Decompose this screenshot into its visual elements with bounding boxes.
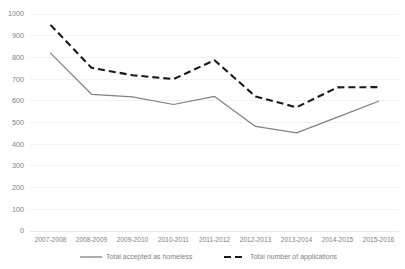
- y-axis-tick-label: 1000: [8, 9, 24, 18]
- y-axis-tick-label: 500: [12, 118, 24, 127]
- y-axis-tick-label: 600: [12, 96, 24, 105]
- x-axis-tick-label: 2010-2011: [158, 236, 189, 243]
- chart-legend: Total accepted as homelessTotal number o…: [80, 253, 338, 261]
- x-axis-tick-label: 2007-2008: [35, 236, 67, 243]
- legend-label[interactable]: Total accepted as homeless: [106, 253, 193, 261]
- line-chart: 01002003004005006007008009001000 2007-20…: [0, 0, 405, 269]
- chart-plot-area: 01002003004005006007008009001000 2007-20…: [0, 0, 405, 269]
- y-axis-tick-label: 100: [12, 205, 24, 214]
- x-axis-tick-label: 2009-2010: [117, 236, 149, 243]
- y-axis-tick-label: 300: [12, 161, 24, 170]
- legend-label[interactable]: Total number of applications: [250, 253, 338, 261]
- y-axis-tick-label: 400: [12, 140, 24, 149]
- y-axis-tick-labels: 01002003004005006007008009001000: [8, 9, 24, 235]
- x-axis-tick-label: 2012-2013: [240, 236, 272, 243]
- y-axis-tick-label: 800: [12, 53, 24, 62]
- x-axis-tick-label: 2015-2016: [363, 236, 395, 243]
- y-axis-tick-label: 700: [12, 75, 24, 84]
- chart-svg: 01002003004005006007008009001000 2007-20…: [0, 0, 405, 269]
- x-axis-tick-labels: 2007-20082008-20092009-20102010-20112011…: [35, 236, 395, 243]
- y-axis-tick-label: 0: [20, 226, 24, 235]
- x-axis-tick-label: 2008-2009: [76, 236, 108, 243]
- x-axis-tick-label: 2011-2012: [199, 236, 230, 243]
- y-axis-tick-label: 900: [12, 31, 24, 40]
- x-axis-tick-label: 2013-2014: [281, 236, 313, 243]
- y-axis-tick-label: 200: [12, 183, 24, 192]
- x-axis-tick-label: 2014-2015: [322, 236, 354, 243]
- series-line: [51, 53, 379, 133]
- gridlines: [30, 14, 399, 231]
